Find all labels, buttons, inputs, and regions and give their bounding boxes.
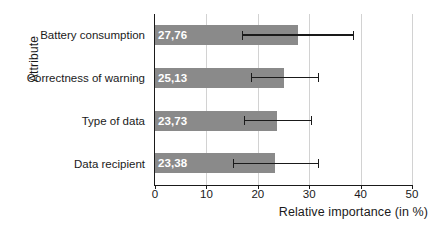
error-bar-line bbox=[251, 77, 318, 78]
y-axis-category-labels: Battery consumptionCorrectness of warnin… bbox=[18, 14, 149, 185]
x-axis-tick-label: 40 bbox=[341, 188, 381, 200]
error-bar-cap-low bbox=[233, 159, 234, 168]
bar-group: 25,13 bbox=[155, 57, 412, 100]
x-axis-tick-labels: 01020304050 bbox=[155, 188, 412, 204]
error-bar-cap-low bbox=[251, 73, 252, 82]
error-bar-line bbox=[244, 120, 311, 121]
bar-group: 23,73 bbox=[155, 100, 412, 143]
bar-group: 23,38 bbox=[155, 142, 412, 185]
error-bar-line bbox=[242, 34, 353, 35]
bar-group: 27,76 bbox=[155, 14, 412, 57]
error-bar-cap-high bbox=[318, 159, 319, 168]
x-axis-title: Relative importance (in %) bbox=[0, 205, 428, 219]
error-bar-cap-low bbox=[242, 31, 243, 40]
y-axis-category-label: Battery consumption bbox=[40, 28, 145, 42]
x-axis-tick-label: 50 bbox=[392, 188, 432, 200]
x-axis-line bbox=[154, 185, 413, 186]
bar-value-label: 25,13 bbox=[158, 69, 187, 87]
error-bar-cap-high bbox=[318, 73, 319, 82]
x-axis-tick-label: 20 bbox=[238, 188, 278, 200]
x-axis-tick-label: 0 bbox=[135, 188, 175, 200]
error-bar-cap-high bbox=[353, 31, 354, 40]
error-bar-cap-high bbox=[311, 116, 312, 125]
error-bar-cap-low bbox=[244, 116, 245, 125]
bar-value-label: 23,73 bbox=[158, 112, 187, 130]
x-axis-tick-label: 10 bbox=[186, 188, 226, 200]
y-axis-category-label: Correctness of warning bbox=[27, 71, 145, 85]
bar-value-label: 27,76 bbox=[158, 26, 187, 44]
gridline bbox=[412, 14, 413, 185]
plot-area: 27,7625,1323,7323,38 bbox=[155, 14, 412, 185]
x-axis-tick-label: 30 bbox=[289, 188, 329, 200]
bar-chart: Attribute Battery consumptionCorrectness… bbox=[0, 0, 434, 229]
y-axis-category-label: Type of data bbox=[82, 114, 145, 128]
bar-value-label: 23,38 bbox=[158, 154, 187, 172]
error-bar-line bbox=[233, 163, 318, 164]
y-axis-category-label: Data recipient bbox=[74, 157, 145, 171]
